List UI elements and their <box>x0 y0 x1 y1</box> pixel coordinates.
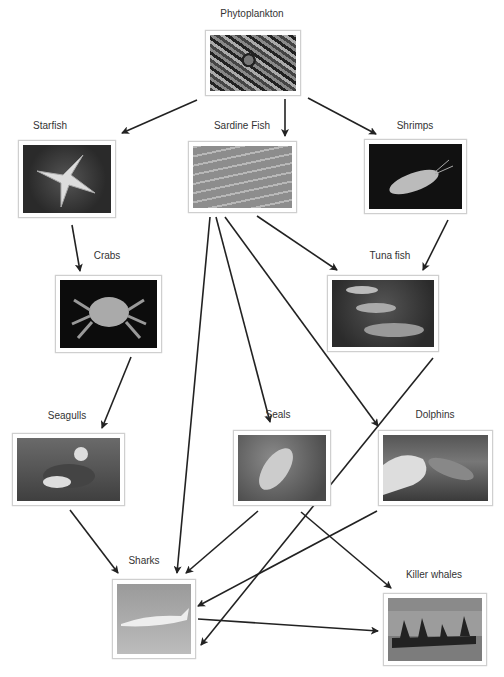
node-seagulls <box>12 433 125 506</box>
node-label-dolphins: Dolphins <box>416 409 455 420</box>
arrow-phytoplankton-shrimps <box>308 98 376 134</box>
crabs-image <box>60 280 157 348</box>
node-label-tuna: Tuna fish <box>370 250 411 261</box>
node-seals <box>233 430 331 506</box>
node-label-sardine: Sardine Fish <box>214 120 270 131</box>
seagulls-image <box>17 438 120 501</box>
killer-whales-image <box>388 598 482 661</box>
node-phytoplankton <box>205 30 301 96</box>
node-label-sharks: Sharks <box>128 555 159 566</box>
arrow-shrimps-tuna <box>423 220 448 270</box>
node-starfish <box>18 140 116 218</box>
node-killer-whales <box>383 593 487 666</box>
node-tuna <box>327 275 439 352</box>
arrow-seals-killer-whales <box>301 512 391 588</box>
arrow-sardine-tuna <box>257 216 337 270</box>
node-shrimps <box>364 139 467 214</box>
node-sharks <box>112 579 196 659</box>
arrow-crabs-seagulls <box>102 357 131 428</box>
phytoplankton-image <box>210 35 296 91</box>
seals-image <box>238 435 326 501</box>
arrow-sardine-seals <box>216 217 270 422</box>
arrow-sharks-killer-whales <box>198 619 378 631</box>
arrow-seagulls-sharks <box>70 510 118 573</box>
node-sardine <box>188 141 297 213</box>
sardine-image <box>193 146 292 208</box>
arrow-dolphins-sharks <box>198 511 377 606</box>
arrow-seals-sharks <box>186 511 258 573</box>
sharks-image <box>117 584 191 654</box>
node-label-phytoplankton: Phytoplankton <box>220 8 283 19</box>
node-label-seals: Seals <box>265 409 290 420</box>
arrow-sardine-sharks <box>177 217 210 573</box>
shrimps-image <box>369 144 462 209</box>
tuna-image <box>332 280 434 347</box>
node-label-crabs: Crabs <box>94 250 121 261</box>
node-label-seagulls: Seagulls <box>48 410 86 421</box>
dolphins-image <box>383 435 488 501</box>
node-label-starfish: Starfish <box>33 120 67 131</box>
node-label-killer-whales: Killer whales <box>406 569 462 580</box>
arrow-starfish-crabs <box>72 225 80 271</box>
arrow-phytoplankton-starfish <box>122 100 197 133</box>
node-crabs <box>55 275 162 353</box>
node-label-shrimps: Shrimps <box>397 120 434 131</box>
starfish-image <box>23 145 111 213</box>
node-dolphins <box>378 430 493 506</box>
